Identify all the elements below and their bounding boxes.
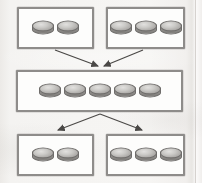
disc bbox=[110, 21, 132, 36]
disc bbox=[139, 84, 161, 99]
disc-top bbox=[110, 148, 132, 159]
disc-top bbox=[135, 148, 157, 159]
disc-top bbox=[89, 84, 111, 95]
arrow-middle-to-bottom-left bbox=[58, 114, 100, 130]
disc-row-top-right bbox=[108, 21, 183, 36]
disc bbox=[160, 21, 182, 36]
disc bbox=[110, 148, 132, 163]
disc-top bbox=[110, 21, 132, 32]
disc bbox=[57, 148, 79, 163]
disc-row-bottom-left bbox=[19, 148, 92, 163]
disc-top bbox=[57, 148, 79, 159]
arrow-middle-to-bottom-right bbox=[100, 114, 142, 130]
disc-top bbox=[160, 21, 182, 32]
disc-row-top-left bbox=[19, 21, 92, 36]
disc-top bbox=[32, 21, 54, 32]
disc bbox=[32, 148, 54, 163]
disc bbox=[32, 21, 54, 36]
group-box-middle[interactable] bbox=[16, 70, 183, 112]
disc-top bbox=[114, 84, 136, 95]
disc-top bbox=[160, 148, 182, 159]
diagram-canvas bbox=[0, 0, 202, 183]
disc bbox=[160, 148, 182, 163]
group-box-bottom-left[interactable] bbox=[17, 134, 94, 176]
arrow-top-right-to-middle bbox=[104, 50, 143, 66]
scan-edge-line bbox=[195, 0, 196, 183]
disc bbox=[64, 84, 86, 99]
disc-top bbox=[139, 84, 161, 95]
disc bbox=[89, 84, 111, 99]
group-box-top-left[interactable] bbox=[17, 7, 94, 49]
disc-top bbox=[32, 148, 54, 159]
disc-top bbox=[64, 84, 86, 95]
arrow-top-left-to-middle bbox=[55, 50, 98, 66]
disc-top bbox=[57, 21, 79, 32]
disc-row-middle bbox=[18, 84, 181, 99]
disc-top bbox=[39, 84, 61, 95]
group-box-top-right[interactable] bbox=[106, 7, 185, 49]
disc-row-bottom-right bbox=[108, 148, 183, 163]
disc bbox=[39, 84, 61, 99]
disc bbox=[135, 21, 157, 36]
disc bbox=[57, 21, 79, 36]
disc bbox=[135, 148, 157, 163]
disc bbox=[114, 84, 136, 99]
disc-top bbox=[135, 21, 157, 32]
group-box-bottom-right[interactable] bbox=[106, 134, 185, 176]
